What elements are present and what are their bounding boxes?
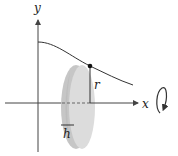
x-axis-label: x — [142, 97, 149, 111]
radius-label: r — [94, 78, 101, 92]
rotation-arrow-icon — [157, 88, 167, 113]
thickness-label: h — [63, 127, 71, 141]
disk-face — [69, 65, 95, 149]
disk-method-diagram: y x r h — [0, 0, 178, 156]
curve-point — [88, 64, 93, 69]
y-axis-label: y — [33, 1, 41, 15]
